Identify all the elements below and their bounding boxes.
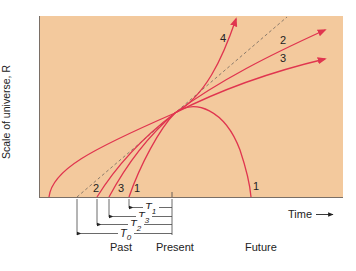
label-future: Future (245, 241, 277, 253)
diagram-canvas: 4 2 3 2 3 1 1 T1 T3 T2 T0 Past Present F… (0, 0, 356, 271)
curve-label-1-lower: 1 (134, 182, 140, 194)
curve-label-4: 4 (220, 32, 226, 44)
curve-label-3-lower: 3 (118, 182, 124, 194)
label-present: Present (156, 241, 194, 253)
curve-label-3-upper: 3 (280, 52, 286, 64)
curve-label-1-fall: 1 (253, 180, 259, 192)
label-past: Past (110, 241, 132, 253)
x-axis-label: Time (288, 208, 312, 220)
curve-label-2-lower: 2 (93, 182, 99, 194)
curve-label-2-upper: 2 (280, 34, 286, 46)
